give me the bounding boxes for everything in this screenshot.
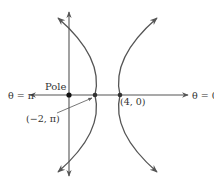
vertex-left-point — [93, 93, 98, 98]
vertex-right-label: (4, 0) — [120, 96, 146, 107]
pole-point — [66, 92, 71, 97]
polar-hyperbola-diagram: θ = π θ = 0 Pole (4, 0) (−2, π) — [0, 0, 214, 182]
theta-zero-label: θ = 0 — [192, 90, 214, 101]
vertex-left-pointer — [57, 98, 92, 113]
pole-label: Pole — [45, 81, 67, 92]
vertex-left-label: (−2, π) — [26, 113, 60, 124]
theta-pi-label: θ = π — [8, 90, 34, 101]
